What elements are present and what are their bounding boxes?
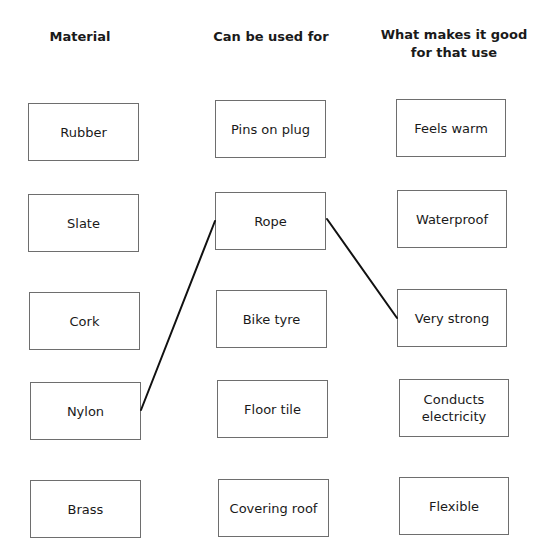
property-label: Conducts electricity: [410, 391, 498, 425]
connection-lines: [0, 0, 545, 547]
use-label: Bike tyre: [239, 311, 305, 328]
use-box-rope[interactable]: Rope: [215, 192, 326, 250]
use-box-covering-roof[interactable]: Covering roof: [218, 479, 329, 537]
use-label: Rope: [250, 213, 291, 230]
material-label: Brass: [64, 501, 108, 518]
connection-line-nylon-rope[interactable]: [141, 221, 215, 410]
material-label: Cork: [66, 313, 104, 330]
header-property: What makes it good for that use: [378, 26, 530, 62]
connection-line-rope-very-strong[interactable]: [327, 219, 397, 318]
property-box-conducts-electricity[interactable]: Conducts electricity: [399, 379, 509, 437]
use-label: Covering roof: [226, 500, 322, 517]
use-box-pins-on-plug[interactable]: Pins on plug: [215, 100, 326, 158]
material-box-cork[interactable]: Cork: [29, 292, 140, 350]
header-use: Can be used for: [196, 28, 346, 46]
property-box-feels-warm[interactable]: Feels warm: [396, 99, 506, 157]
property-label: Flexible: [425, 498, 483, 515]
header-material: Material: [5, 28, 155, 46]
material-box-nylon[interactable]: Nylon: [30, 382, 141, 440]
property-box-very-strong[interactable]: Very strong: [397, 289, 507, 347]
material-label: Rubber: [56, 124, 111, 141]
property-label: Waterproof: [412, 211, 492, 228]
property-label: Very strong: [411, 310, 493, 327]
property-label: Feels warm: [410, 120, 492, 137]
use-label: Floor tile: [240, 401, 305, 418]
use-label: Pins on plug: [227, 121, 314, 138]
material-label: Nylon: [63, 403, 108, 420]
use-box-floor-tile[interactable]: Floor tile: [217, 380, 328, 438]
property-box-flexible[interactable]: Flexible: [399, 477, 509, 535]
material-box-brass[interactable]: Brass: [30, 480, 141, 538]
use-box-bike-tyre[interactable]: Bike tyre: [216, 290, 327, 348]
material-label: Slate: [63, 215, 104, 232]
property-box-waterproof[interactable]: Waterproof: [397, 190, 507, 248]
material-box-rubber[interactable]: Rubber: [28, 103, 139, 161]
material-box-slate[interactable]: Slate: [28, 194, 139, 252]
